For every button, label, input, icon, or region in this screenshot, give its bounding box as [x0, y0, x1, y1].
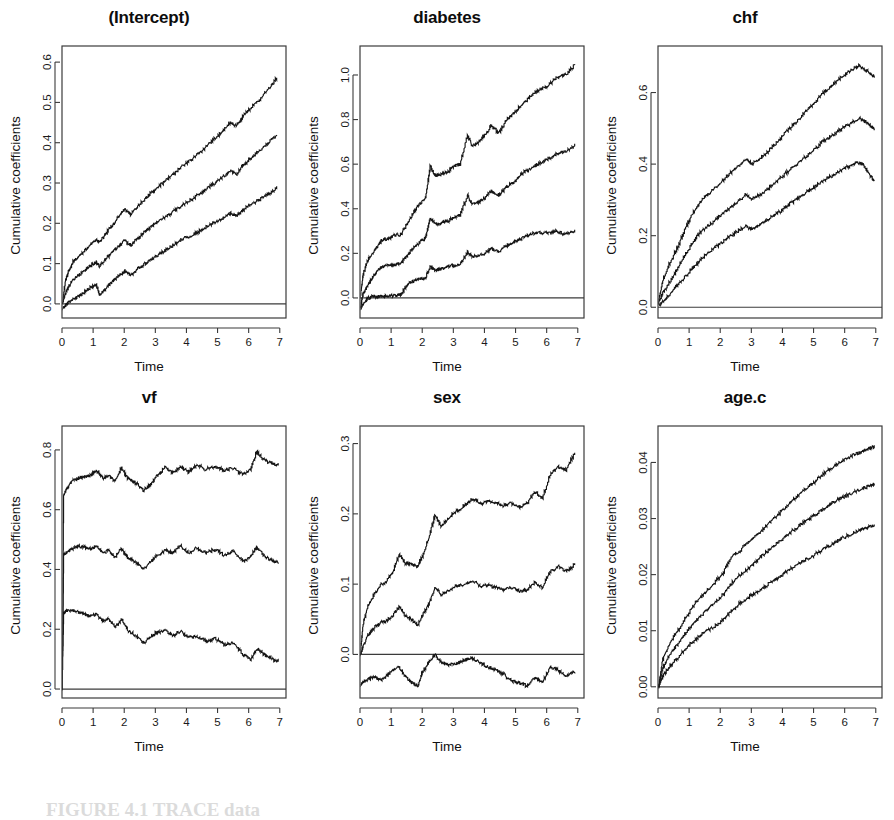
series-line [62, 135, 277, 303]
y-axis-label-text: Cumulative coefficients [306, 116, 321, 255]
plot-frame [658, 46, 882, 318]
plot-area: 0.00.20.40.60.81.001234567Cumulative coe… [298, 30, 596, 380]
x-tick-label: 4 [183, 336, 190, 348]
x-tick-label: 6 [245, 716, 251, 728]
x-tick-label: 5 [214, 716, 220, 728]
x-tick-label: 3 [450, 336, 456, 348]
x-tick-label: 4 [183, 716, 190, 728]
x-axis-label: Time [0, 359, 298, 374]
y-tick-label: 0.1 [41, 256, 53, 272]
y-tick-label: 0.0 [339, 290, 351, 306]
y-tick-label: 0.6 [41, 502, 53, 518]
y-axis-label-text: Cumulative coefficients [8, 116, 23, 255]
x-tick-label: 6 [841, 716, 847, 728]
x-tick-label: 6 [543, 336, 549, 348]
x-tick-label: 5 [810, 336, 816, 348]
plot-svg: 0.00.20.40.60.81.001234567 [298, 30, 596, 380]
series-line [360, 144, 575, 308]
chart-panel-age-c: age.c0.000.010.020.030.0401234567Cumulat… [596, 380, 894, 760]
y-axis-label: Cumulative coefficients [6, 30, 24, 340]
series-line [62, 186, 277, 309]
y-axis-label: Cumulative coefficients [304, 30, 322, 340]
series-line [62, 609, 278, 690]
x-tick-label: 3 [748, 336, 754, 348]
x-tick-label: 2 [717, 716, 723, 728]
y-tick-label: 0.2 [41, 215, 53, 231]
x-tick-label: 0 [655, 716, 661, 728]
panel-title: age.c [596, 388, 894, 408]
y-tick-label: 0.4 [339, 200, 351, 217]
y-tick-label: 0.4 [41, 134, 53, 151]
y-tick-label: 0.02 [637, 563, 649, 585]
y-tick-label: 0.2 [637, 228, 649, 244]
plot-area: 0.00.10.20.301234567Cumulative coefficie… [298, 410, 596, 760]
plot-area: 0.000.010.020.030.0401234567Cumulative c… [596, 410, 894, 760]
x-tick-label: 6 [543, 716, 549, 728]
x-tick-label: 5 [214, 336, 220, 348]
y-tick-label: 0.0 [339, 646, 351, 662]
y-tick-label: 0.00 [637, 676, 649, 698]
y-tick-label: 0.04 [637, 451, 649, 474]
series-line [360, 453, 575, 654]
x-axis-label: Time [596, 739, 894, 754]
series-line [360, 654, 575, 688]
chart-panel--intercept-: (Intercept)0.00.10.20.30.40.50.601234567… [0, 0, 298, 380]
x-tick-label: 7 [873, 716, 879, 728]
y-tick-label: 0.0 [41, 681, 53, 697]
y-axis-label-text: Cumulative coefficients [8, 496, 23, 635]
y-tick-label: 0.5 [41, 94, 53, 110]
y-axis-label-text: Cumulative coefficients [604, 496, 619, 635]
y-tick-label: 0.2 [41, 621, 53, 637]
x-tick-label: 0 [357, 336, 363, 348]
x-tick-label: 3 [748, 716, 754, 728]
series-line [658, 117, 874, 303]
y-tick-label: 0.4 [41, 561, 53, 578]
x-tick-label: 3 [152, 716, 158, 728]
x-tick-label: 1 [90, 716, 96, 728]
y-axis-label-text: Cumulative coefficients [604, 116, 619, 255]
series-line [658, 524, 874, 686]
x-tick-label: 7 [575, 336, 581, 348]
panel-title: diabetes [298, 8, 596, 28]
plot-area: 0.00.20.40.60.801234567Cumulative coeffi… [0, 410, 298, 760]
y-axis-label: Cumulative coefficients [602, 410, 620, 720]
chart-panel-chf: chf0.00.20.40.601234567Cumulative coeffi… [596, 0, 894, 380]
x-tick-label: 2 [717, 336, 723, 348]
x-tick-label: 0 [655, 336, 661, 348]
y-axis-label: Cumulative coefficients [6, 410, 24, 720]
x-tick-label: 4 [481, 716, 488, 728]
x-tick-label: 3 [450, 716, 456, 728]
x-tick-label: 4 [779, 336, 786, 348]
panel-title: chf [596, 8, 894, 28]
chart-panel-sex: sex0.00.10.20.301234567Cumulative coeffi… [298, 380, 596, 760]
x-axis-label: Time [0, 739, 298, 754]
x-tick-label: 6 [245, 336, 251, 348]
y-tick-label: 0.8 [339, 112, 351, 128]
plot-svg: 0.00.20.40.60.801234567 [0, 410, 298, 760]
x-axis-label: Time [298, 739, 596, 754]
plot-svg: 0.00.10.20.301234567 [298, 410, 596, 760]
y-axis-label: Cumulative coefficients [304, 410, 322, 720]
panel-title: (Intercept) [0, 8, 298, 28]
panel-title: sex [298, 388, 596, 408]
series-line [658, 445, 874, 688]
plot-svg: 0.000.010.020.030.0401234567 [596, 410, 894, 760]
plot-svg: 0.00.20.40.601234567 [596, 30, 894, 380]
plot-area: 0.00.20.40.601234567Cumulative coefficie… [596, 30, 894, 380]
y-tick-label: 0.6 [637, 85, 649, 101]
x-tick-label: 2 [121, 336, 127, 348]
x-tick-label: 1 [388, 716, 394, 728]
x-tick-label: 7 [277, 716, 283, 728]
y-tick-label: 0.3 [41, 175, 53, 191]
y-tick-label: 0.03 [637, 507, 649, 529]
plot-frame [62, 46, 286, 318]
y-tick-label: 0.8 [41, 442, 53, 458]
x-tick-label: 0 [59, 716, 65, 728]
plot-area: 0.00.10.20.30.40.50.601234567Cumulative … [0, 30, 298, 380]
x-tick-label: 2 [419, 716, 425, 728]
x-tick-label: 2 [121, 716, 127, 728]
x-tick-label: 1 [686, 336, 692, 348]
y-tick-label: 0.01 [637, 620, 649, 642]
plot-svg: 0.00.10.20.30.40.50.601234567 [0, 30, 298, 380]
